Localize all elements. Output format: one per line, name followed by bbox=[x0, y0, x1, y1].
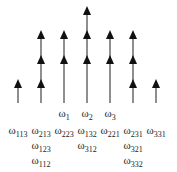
omega-label-312: ω312 bbox=[77, 139, 96, 156]
arrow-column-1 bbox=[14, 79, 22, 103]
omega-label-332: ω332 bbox=[123, 154, 142, 171]
arrowhead-icon bbox=[106, 55, 114, 64]
omega-label-113: ω113 bbox=[9, 124, 28, 141]
arrowhead-icon bbox=[37, 55, 45, 64]
omega-label-112: ω112 bbox=[32, 154, 51, 171]
arrowhead-icon bbox=[129, 30, 137, 39]
omega-label-3: ω3 bbox=[104, 107, 115, 124]
omega-label-221: ω221 bbox=[100, 124, 119, 141]
arrowhead-icon bbox=[83, 30, 91, 39]
arrowhead-icon bbox=[37, 79, 45, 88]
arrowhead-icon bbox=[83, 6, 91, 15]
arrowhead-icon bbox=[129, 55, 137, 64]
arrow-column-3 bbox=[60, 30, 68, 103]
omega-label-2: ω2 bbox=[81, 107, 92, 124]
arrowhead-icon bbox=[83, 55, 91, 64]
arrow-column-6 bbox=[129, 30, 137, 103]
omega-label-1: ω1 bbox=[58, 107, 69, 124]
arrowhead-icon bbox=[14, 79, 22, 88]
arrow-column-5 bbox=[106, 30, 114, 103]
arrowhead-icon bbox=[152, 79, 160, 88]
arrowhead-icon bbox=[37, 30, 45, 39]
arrow-column-4 bbox=[83, 6, 91, 103]
arrow-column-2 bbox=[37, 30, 45, 103]
arrowhead-icon bbox=[60, 55, 68, 64]
arrowhead-icon bbox=[60, 30, 68, 39]
omega-label-331: ω331 bbox=[146, 124, 165, 141]
arrowhead-icon bbox=[129, 79, 137, 88]
arrow-column-7 bbox=[152, 79, 160, 103]
omega-label-223: ω223 bbox=[54, 124, 73, 141]
arrowhead-icon bbox=[106, 30, 114, 39]
